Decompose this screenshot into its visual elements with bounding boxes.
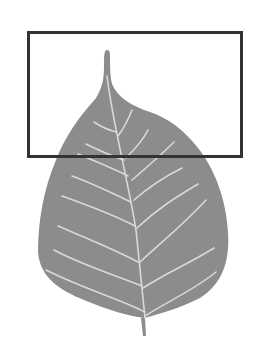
leaf-blade	[38, 50, 228, 318]
leaf-stem	[141, 318, 146, 336]
figure-canvas	[0, 0, 255, 348]
leaf-illustration	[0, 0, 255, 348]
